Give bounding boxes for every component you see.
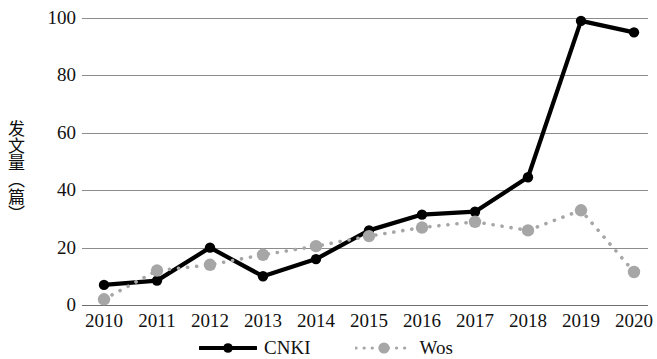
data-point-cnki-2018 — [523, 172, 533, 182]
data-point-wos-2015 — [363, 230, 375, 242]
data-point-cnki-2010 — [99, 280, 109, 290]
data-point-cnki-2013 — [258, 271, 268, 281]
legend-entry-wos[interactable]: Wos — [355, 336, 453, 359]
chart-legend: CNKIWos — [0, 336, 652, 359]
y-axis-tick-labels: 020406080100 — [14, 0, 76, 359]
data-point-wos-2016 — [416, 221, 428, 233]
data-point-wos-2010 — [98, 293, 110, 305]
data-point-cnki-2012 — [205, 242, 215, 252]
x-axis-tick-labels: 2010201120122013201420152016201720182019… — [82, 309, 648, 337]
series-line-cnki — [104, 21, 634, 285]
y-tick-label-80: 80 — [20, 65, 76, 84]
data-point-cnki-2014 — [311, 254, 321, 264]
y-tick-label-0: 0 — [20, 295, 76, 314]
data-point-wos-2011 — [151, 264, 163, 276]
legend-label-wos: Wos — [420, 338, 453, 357]
x-tick-label-2020: 2020 — [599, 309, 657, 333]
data-point-cnki-2016 — [417, 209, 427, 219]
data-point-wos-2012 — [204, 259, 216, 271]
legend-swatch-wos — [355, 341, 413, 355]
legend-label-cnki: CNKI — [264, 338, 310, 357]
data-point-wos-2018 — [522, 224, 534, 236]
data-point-wos-2020 — [628, 266, 640, 278]
series-line-wos — [104, 210, 634, 299]
legend-entry-cnki[interactable]: CNKI — [199, 336, 310, 359]
series-wos — [98, 204, 640, 305]
plot-area — [82, 18, 648, 305]
legend-swatch-cnki — [199, 341, 257, 355]
data-point-cnki-2011 — [152, 275, 162, 285]
y-tick-label-100: 100 — [20, 8, 76, 27]
data-point-cnki-2019 — [576, 16, 586, 26]
data-point-cnki-2020 — [629, 27, 639, 37]
data-point-wos-2019 — [575, 204, 587, 216]
data-point-wos-2017 — [469, 216, 481, 228]
y-tick-label-60: 60 — [20, 123, 76, 142]
y-tick-label-20: 20 — [20, 238, 76, 257]
y-tick-label-40: 40 — [20, 180, 76, 199]
data-point-cnki-2017 — [470, 207, 480, 217]
data-point-wos-2013 — [257, 249, 269, 261]
gridline-0 — [82, 305, 648, 306]
series-cnki — [99, 16, 639, 290]
data-point-wos-2014 — [310, 240, 322, 252]
series-overlay — [82, 18, 648, 305]
